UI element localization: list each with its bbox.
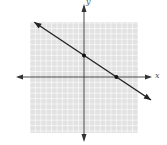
point-marker [82, 53, 86, 57]
y-axis-down-arrow-icon [82, 134, 87, 142]
point-marker [114, 75, 118, 79]
y-axis-label: y [86, 0, 91, 6]
x-axis-left-arrow-icon [16, 75, 23, 80]
line-arrow-lower-right-icon [144, 94, 151, 100]
coordinate-plane [0, 0, 167, 145]
x-axis-right-arrow-icon [145, 75, 152, 80]
x-axis-label: x [155, 71, 160, 80]
